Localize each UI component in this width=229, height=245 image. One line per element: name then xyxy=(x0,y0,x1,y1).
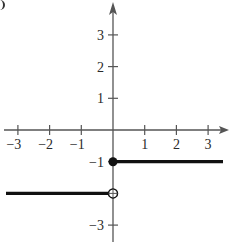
x-tick-label: −1 xyxy=(70,137,85,152)
closed-endpoint xyxy=(109,157,118,166)
step-function-graph: −3−2−1123321−1−3 xyxy=(0,0,229,245)
y-tick-label: 1 xyxy=(97,91,104,106)
x-tick-label: 1 xyxy=(141,137,148,152)
y-tick-label: 2 xyxy=(97,60,104,75)
x-tick-label: 3 xyxy=(205,137,212,152)
axes xyxy=(4,2,229,242)
y-tick-label: −1 xyxy=(89,155,104,170)
y-tick-label: −3 xyxy=(89,218,104,233)
y-tick-label: 3 xyxy=(97,28,104,43)
x-tick-label: −3 xyxy=(6,137,21,152)
x-tick-label: −2 xyxy=(38,137,53,152)
x-tick-label: 2 xyxy=(173,137,180,152)
